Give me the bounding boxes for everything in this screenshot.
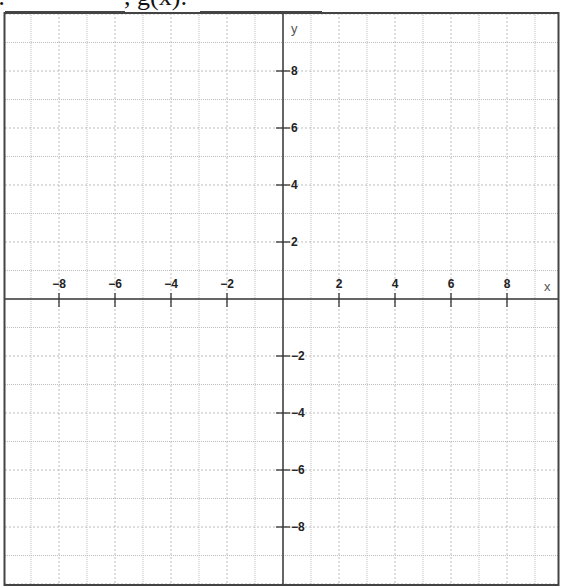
x-tick-label: −4 <box>164 277 178 291</box>
y-tick-label: −4 <box>291 406 305 420</box>
x-axis-label: x <box>544 279 551 294</box>
x-tick-label: 4 <box>392 277 399 291</box>
y-tick-label: 2 <box>291 235 298 249</box>
x-tick-label: −6 <box>108 277 122 291</box>
x-tick-label: −2 <box>220 277 234 291</box>
y-tick-label: 8 <box>291 64 298 78</box>
y-tick-label: 6 <box>291 121 298 135</box>
y-tick-label: −8 <box>291 520 305 534</box>
x-tick-label: 6 <box>448 277 455 291</box>
y-axis-label: y <box>291 21 298 36</box>
coordinate-grid: −8−6−4−224688642−2−4−6−8 x y <box>0 0 561 588</box>
x-tick-label: 8 <box>504 277 511 291</box>
x-tick-label: 2 <box>336 277 343 291</box>
y-tick-label: −6 <box>291 463 305 477</box>
y-tick-label: 4 <box>291 178 298 192</box>
x-tick-label: −8 <box>52 277 66 291</box>
y-tick-label: −2 <box>291 349 305 363</box>
axes <box>5 13 559 585</box>
